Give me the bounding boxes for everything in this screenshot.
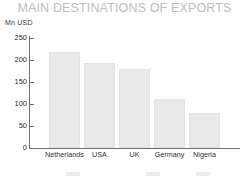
y-axis-tick [30, 82, 34, 83]
y-axis-tick [30, 38, 34, 39]
y-axis-tick-label: 150 [14, 78, 27, 86]
y-axis-tick-label: 250 [14, 34, 27, 42]
cropped-legend [0, 171, 249, 186]
legend-swatch [66, 172, 80, 176]
y-axis-tick [30, 60, 34, 61]
y-axis-tick-label: 50 [19, 122, 27, 130]
legend-swatch [196, 172, 210, 176]
bar-germany [154, 99, 185, 148]
chart-title: MAIN DESTINATIONS OF EXPORTS [0, 1, 249, 15]
bar-uk [119, 69, 150, 148]
x-axis-label-nigeria: Nigeria [179, 151, 230, 158]
y-axis-tick-label: 100 [14, 100, 27, 108]
bar-netherlands [49, 52, 80, 148]
y-axis-tick-label: 200 [14, 56, 27, 64]
y-axis-tick [30, 104, 34, 105]
y-axis-unit-label: Mn USD [5, 19, 33, 26]
exports-bar-chart: MAIN DESTINATIONS OF EXPORTS Mn USD 0501… [0, 0, 249, 186]
legend-swatch [146, 172, 160, 176]
y-axis-tick [30, 126, 34, 127]
y-axis-line [29, 36, 30, 149]
bar-usa [84, 63, 115, 148]
bar-nigeria [189, 113, 220, 148]
x-axis-line [29, 148, 240, 149]
y-axis-tick [30, 148, 34, 149]
y-axis-tick-label: 0 [23, 144, 27, 152]
